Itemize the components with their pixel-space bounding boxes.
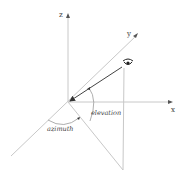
azimuth-label: azimuth — [47, 125, 74, 133]
eye-icon — [123, 59, 133, 65]
z-axis-label: z — [59, 11, 63, 19]
azimuth-arc — [48, 118, 79, 125]
view-angle-diagram: z y x elevation azimuth — [0, 0, 181, 179]
y-axis — [11, 35, 137, 156]
z-axis-arrow-icon — [66, 13, 70, 18]
elevation-label: elevation — [91, 109, 121, 117]
x-axis-arrow-icon — [168, 100, 173, 104]
drop-line — [123, 68, 124, 170]
y-axis-arrow-icon — [133, 33, 138, 38]
view-direction-line — [70, 67, 122, 101]
x-axis-label: x — [171, 106, 175, 114]
y-axis-label: y — [126, 30, 131, 38]
